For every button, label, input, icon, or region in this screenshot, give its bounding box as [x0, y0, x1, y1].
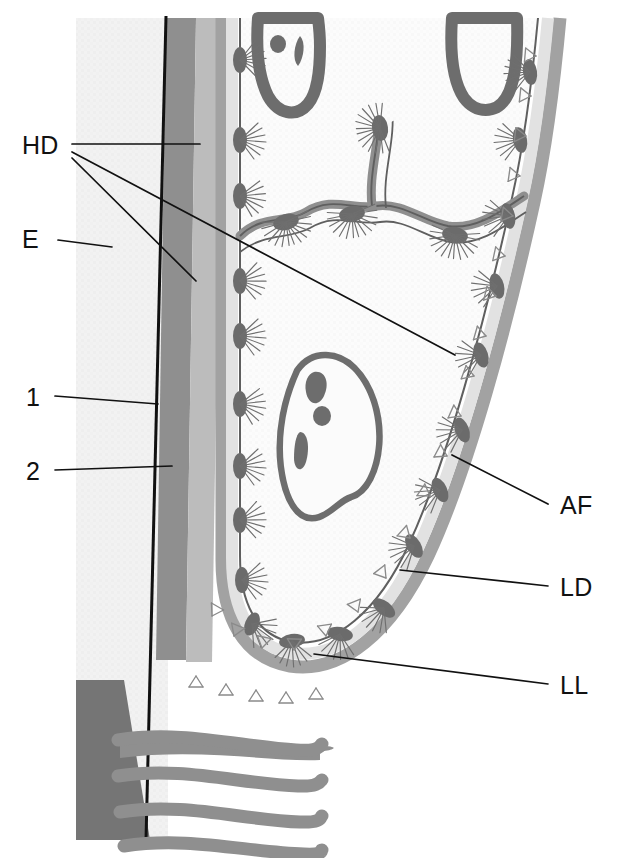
- label-af: AF: [560, 491, 593, 519]
- basement-membrane-diagram: HD E 1 2 AF LD LL: [0, 0, 622, 858]
- label-1: 1: [26, 383, 40, 411]
- label-ld: LD: [560, 573, 593, 601]
- label-e: E: [22, 225, 39, 253]
- label-2: 2: [26, 457, 40, 485]
- label-hd: HD: [22, 131, 59, 159]
- figure-root: HD E 1 2 AF LD LL: [0, 0, 622, 858]
- label-ll: LL: [560, 671, 588, 699]
- nucleus-central: [283, 358, 376, 515]
